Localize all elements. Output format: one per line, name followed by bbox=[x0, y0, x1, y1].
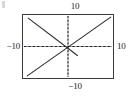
axis-label-top: 10 bbox=[57, 2, 93, 11]
plot-frame bbox=[22, 14, 114, 79]
axis-label-right: 10 bbox=[117, 42, 136, 51]
axis-label-bottom: −10 bbox=[57, 82, 93, 91]
corner-artifact bbox=[2, 1, 5, 8]
plot-canvas bbox=[23, 15, 113, 78]
series-line-y-equals-negative-x bbox=[28, 18, 78, 56]
axis-label-left: −10 bbox=[1, 42, 20, 51]
calculator-graph-viewport: 10 −10 −10 10 bbox=[0, 0, 137, 96]
